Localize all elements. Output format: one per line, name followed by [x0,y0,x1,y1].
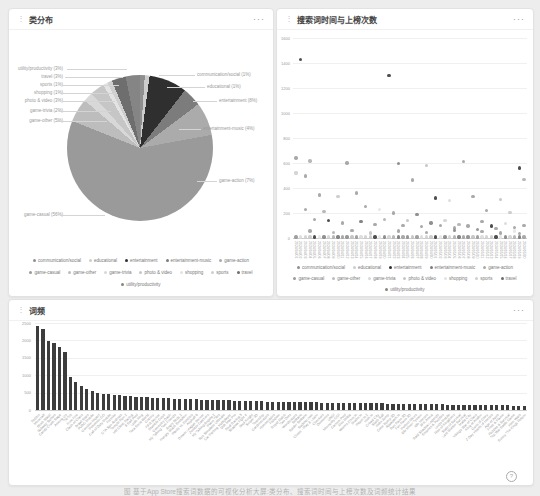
scatter-point[interactable] [485,209,488,212]
scatter-point[interactable] [480,235,483,238]
legend-item[interactable]: sports [475,276,492,281]
scatter-point[interactable] [341,221,344,224]
legend-item[interactable]: entertainment [389,265,422,270]
scatter-point[interactable] [327,219,330,222]
bar[interactable] [102,394,105,410]
scatter-point[interactable] [359,220,362,223]
bar[interactable] [129,396,132,410]
bar[interactable] [402,404,405,410]
bar[interactable] [359,403,362,410]
bar[interactable] [342,403,345,410]
bar[interactable] [320,403,323,410]
bar[interactable] [113,395,116,410]
scatter-point[interactable] [462,235,465,238]
scatter-point[interactable] [425,231,428,234]
bar[interactable] [123,396,126,410]
bar[interactable] [277,402,280,410]
scatter-point[interactable] [480,230,483,233]
scatter-point[interactable] [504,222,507,225]
scatter-point[interactable] [332,231,335,234]
scatter-point[interactable] [522,178,525,181]
scatter-point[interactable] [429,221,432,224]
scatter-point[interactable] [439,224,442,227]
scatter-point[interactable] [299,235,302,238]
bar[interactable] [238,401,241,410]
scatter-point[interactable] [471,195,474,198]
bar[interactable] [337,403,340,410]
scatter-point[interactable] [457,223,460,226]
legend-item[interactable]: entertainment [125,258,158,263]
scatter-point[interactable] [476,228,479,231]
bar[interactable] [255,401,258,410]
legend-item[interactable]: game-casual [293,276,324,281]
scatter-point[interactable] [494,227,497,230]
scatter-point[interactable] [308,235,311,238]
scatter-point[interactable] [332,235,335,238]
bar[interactable] [391,404,394,410]
scatter-point[interactable] [499,231,502,234]
scatter-point[interactable] [336,195,339,198]
scatter-point[interactable] [369,235,372,238]
bar[interactable] [233,401,236,410]
scatter-point[interactable] [350,235,353,238]
legend-item[interactable]: photo & video [403,276,436,281]
legend-item[interactable]: entertainment-music [166,258,212,263]
help-icon[interactable]: ? [506,471,517,482]
legend-item[interactable]: shopping [444,276,467,281]
bar[interactable] [353,403,356,410]
scatter-point[interactable] [508,235,511,238]
scatter-point[interactable] [415,213,418,216]
bar[interactable] [419,404,422,410]
scatter-point[interactable] [387,74,390,77]
bar[interactable] [118,395,121,410]
scatter-point[interactable] [429,235,432,238]
scatter-point[interactable] [327,235,330,238]
bar[interactable] [85,389,88,410]
legend-item[interactable]: game-other [68,270,96,275]
bar[interactable] [468,405,471,410]
bar[interactable] [462,405,465,410]
legend-item[interactable]: game-trivia [368,276,395,281]
bar[interactable] [184,399,187,410]
scatter-point[interactable] [308,159,311,162]
bar[interactable] [430,404,433,410]
bar[interactable] [69,377,72,410]
scatter-point[interactable] [448,199,451,202]
scatter-point[interactable] [397,162,400,165]
legend-item[interactable]: utility/productivity [121,282,160,287]
scatter-point[interactable] [369,231,372,234]
scatter-point[interactable] [513,229,516,232]
bar[interactable] [107,394,110,410]
scatter-point[interactable] [355,191,358,194]
legend-item[interactable]: communication/social [297,265,345,270]
bar[interactable] [63,352,66,410]
scatter-point[interactable] [355,235,358,238]
bar[interactable] [424,404,427,410]
bar[interactable] [413,404,416,410]
bar[interactable] [260,401,263,410]
bar[interactable] [282,402,285,410]
bar[interactable] [473,405,476,410]
bar[interactable] [287,402,290,410]
scatter-point[interactable] [494,235,497,238]
scatter-point[interactable] [415,235,418,238]
scatter-point[interactable] [336,235,339,238]
scatter-point[interactable] [499,198,502,201]
more-menu-icon[interactable]: ··· [513,305,525,315]
scatter-point[interactable] [504,235,507,238]
bar[interactable] [58,347,61,410]
legend-item[interactable]: entertainment-music [430,265,476,270]
bar[interactable] [156,398,159,410]
scatter-point[interactable] [378,208,381,211]
legend-item[interactable]: travel [237,270,253,275]
drag-handle-icon[interactable]: ⋮ [285,9,293,29]
bar[interactable] [309,402,312,410]
bar[interactable] [446,405,449,410]
legend-item[interactable]: game-action [219,258,249,263]
bar[interactable] [435,404,438,410]
scatter-point[interactable] [443,219,446,222]
bar[interactable] [304,402,307,410]
bar[interactable] [216,400,219,410]
bar[interactable] [91,391,94,410]
scatter-point[interactable] [476,235,479,238]
